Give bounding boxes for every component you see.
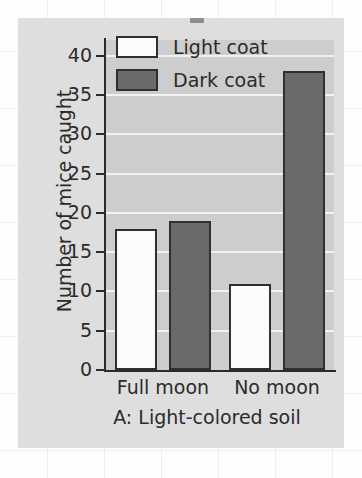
y-axis-tick-label: 10: [46, 281, 92, 300]
x-axis-line: [104, 370, 336, 372]
chart-legend: Light coat Dark coat: [116, 30, 268, 96]
y-axis-tick: [96, 369, 105, 371]
figure-panel: Number of mice caught 0510152025303540 L…: [18, 18, 344, 448]
y-axis-tick-label: 5: [46, 321, 92, 340]
bar-full-moon-light-coat: [115, 229, 157, 370]
bar-no-moon-light-coat: [229, 284, 271, 370]
y-axis-tick: [96, 173, 105, 175]
legend-label-dark-coat: Dark coat: [173, 69, 265, 91]
y-axis-tick: [96, 290, 105, 292]
y-axis-tick: [96, 251, 105, 253]
y-axis-tick: [96, 212, 105, 214]
y-axis-tick-label: 30: [46, 124, 92, 143]
bar-full-moon-dark-coat: [169, 221, 211, 370]
y-axis-tick-label: 25: [46, 164, 92, 183]
y-axis-tick-label: 15: [46, 242, 92, 261]
bar-no-moon-dark-coat: [283, 71, 325, 370]
x-axis-label-no-moon: No moon: [217, 376, 337, 398]
legend-swatch-light-coat: [116, 36, 158, 58]
y-axis-tick-label: 20: [46, 203, 92, 222]
y-axis-tick: [96, 133, 105, 135]
y-axis-tick: [96, 55, 105, 57]
figure-caption: A: Light-colored soil: [78, 406, 336, 428]
y-axis-tick-label: 0: [46, 360, 92, 379]
y-axis-tick-label: 35: [46, 85, 92, 104]
x-axis-label-full-moon: Full moon: [103, 376, 223, 398]
legend-item-dark-coat: Dark coat: [116, 63, 268, 96]
y-axis-line: [104, 38, 106, 372]
legend-item-light-coat: Light coat: [116, 30, 268, 63]
y-axis-tick-label: 40: [46, 46, 92, 65]
y-axis-tick: [96, 94, 105, 96]
legend-swatch-dark-coat: [116, 69, 158, 91]
y-axis-tick: [96, 330, 105, 332]
cropped-text-sliver: [190, 18, 204, 23]
legend-label-light-coat: Light coat: [173, 36, 268, 58]
